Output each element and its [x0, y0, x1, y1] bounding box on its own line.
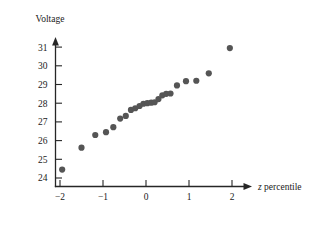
data-point	[59, 166, 65, 172]
y-tick-label-6: 30	[38, 61, 48, 71]
y-tick-label-7: 31	[38, 43, 48, 53]
y-tick-label-4: 28	[38, 99, 48, 109]
tick-labels-group: 2425262728293031−2−1012	[38, 43, 235, 203]
x-tick-label-1: −1	[98, 192, 108, 202]
x-axis-title: z percentile	[257, 182, 302, 192]
plot-canvas: 2425262728293031−2−1012 Voltagez percent…	[0, 0, 332, 227]
data-point	[92, 132, 98, 138]
x-tick-label-2: 0	[144, 192, 149, 202]
data-point	[117, 115, 123, 121]
data-point	[78, 145, 84, 151]
x-axis-title-rest: percentile	[262, 182, 302, 192]
data-point	[174, 82, 180, 88]
axis-titles-group: Voltagez percentile	[36, 14, 302, 192]
data-point	[123, 113, 129, 119]
x-tick-label-0: −2	[55, 192, 65, 202]
y-tick-label-0: 24	[38, 173, 48, 183]
data-point	[103, 129, 109, 135]
normal-probability-plot-figure: 2425262728293031−2−1012 Voltagez percent…	[0, 0, 332, 227]
x-tick-label-4: 2	[230, 192, 235, 202]
y-axis-arrow-icon	[52, 37, 59, 46]
data-point	[183, 78, 189, 84]
x-axis-arrow-icon	[244, 183, 253, 190]
data-point	[193, 78, 199, 84]
y-tick-label-5: 29	[38, 80, 48, 90]
axes-group	[52, 37, 252, 190]
data-point	[167, 90, 173, 96]
x-tick-label-3: 1	[187, 192, 192, 202]
y-tick-label-3: 27	[38, 117, 48, 127]
data-points-group	[59, 45, 233, 173]
data-point	[206, 70, 212, 76]
y-tick-label-1: 25	[38, 155, 48, 165]
data-point	[227, 45, 233, 51]
y-axis-title: Voltage	[36, 14, 65, 24]
data-point	[110, 124, 116, 130]
y-tick-label-2: 26	[38, 136, 48, 146]
tick-marks-group	[56, 47, 233, 186]
